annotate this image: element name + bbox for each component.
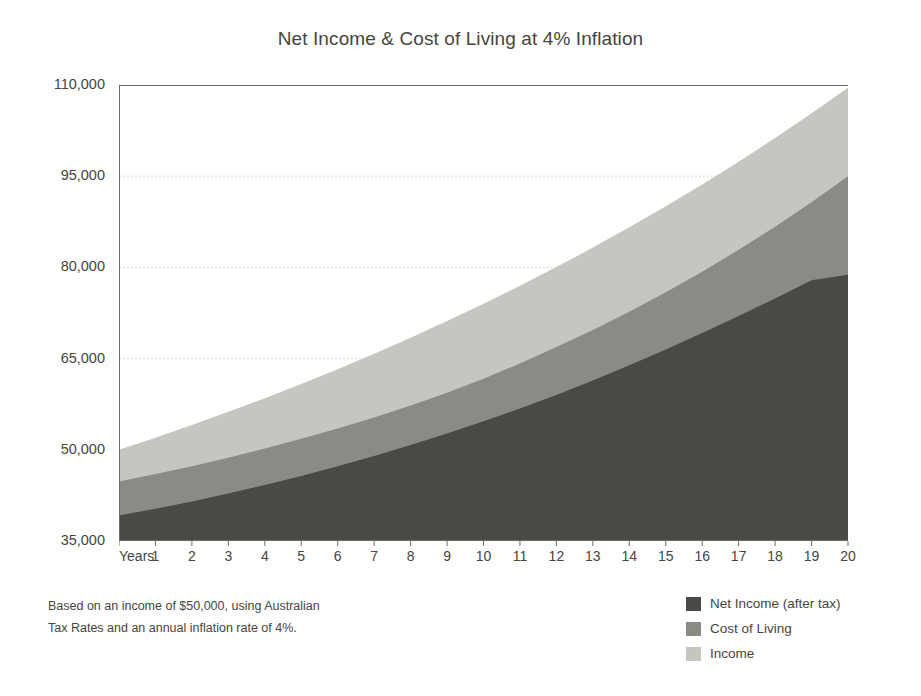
y-axis-tick-label: 80,000 [31,258,105,274]
legend-item-label: Income [710,646,754,661]
y-axis-tick-label: 95,000 [31,167,105,183]
y-axis-tick-label: 65,000 [31,350,105,366]
legend-item: Income [686,642,916,665]
x-axis-tick-label: 4 [261,548,269,564]
y-axis-tick-label: 35,000 [31,532,105,548]
x-axis-tick-label: 6 [334,548,342,564]
x-axis-tick-label: 2 [188,548,196,564]
footnote-line-1: Based on an income of $50,000, using Aus… [48,596,408,618]
x-axis-tick-label: 9 [443,548,451,564]
x-axis-tick-label: 1 [152,548,160,564]
plot-area [119,85,848,541]
x-axis-tick-label: 13 [585,548,601,564]
x-axis-tick-label: 14 [622,548,638,564]
x-axis-tick-label: 17 [731,548,747,564]
x-axis-tick-marks [119,541,850,547]
chart-title: Net Income & Cost of Living at 4% Inflat… [0,28,921,50]
x-axis-tick-label: 15 [658,548,674,564]
x-axis-tick-label: 11 [513,548,528,564]
x-axis-tick-label: 20 [840,548,856,564]
y-axis-tick-label: 50,000 [31,441,105,457]
x-axis-tick-label: 19 [804,548,820,564]
chart-legend: Net Income (after tax)Cost of LivingInco… [686,592,916,667]
chart-footnote: Based on an income of $50,000, using Aus… [48,596,408,640]
x-axis: Years 1234567891011121314151617181920 [0,548,921,570]
x-axis-tick-label: 10 [476,548,492,564]
legend-item: Cost of Living [686,617,916,640]
x-axis-tick-label: 5 [297,548,305,564]
legend-item-label: Cost of Living [710,621,792,636]
y-axis-tick-label: 110,000 [31,76,105,92]
x-axis-tick-label: 12 [549,548,565,564]
x-axis-tick-label: 18 [767,548,783,564]
chart-container: Net Income & Cost of Living at 4% Inflat… [0,0,921,696]
legend-item-label: Net Income (after tax) [710,596,841,611]
legend-color-swatch [686,647,701,661]
area-chart-svg [119,85,848,541]
legend-item: Net Income (after tax) [686,592,916,615]
x-axis-tick-label: 8 [407,548,415,564]
legend-color-swatch [686,597,701,611]
y-axis: 110,00095,00080,00065,00050,00035,000 [31,0,105,696]
x-axis-tick-label: 3 [224,548,232,564]
x-axis-tick-label: 7 [370,548,378,564]
legend-color-swatch [686,622,701,636]
x-axis-title: Years [119,548,154,564]
footnote-line-2: Tax Rates and an annual inflation rate o… [48,618,408,640]
x-axis-tick-label: 16 [694,548,710,564]
